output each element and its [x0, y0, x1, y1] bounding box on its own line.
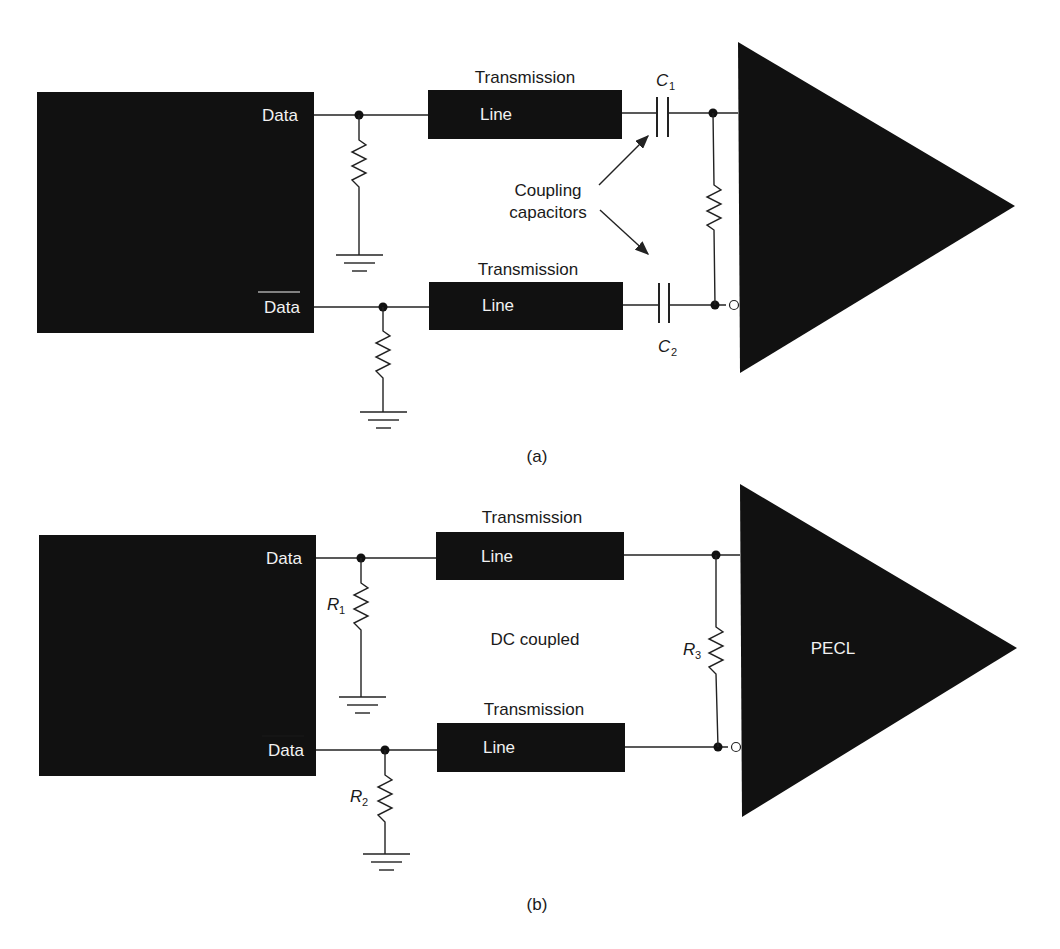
- driver-output-data-a: Data: [262, 106, 298, 125]
- line-label-bottom-b: Line: [483, 738, 515, 757]
- termination-resistor-receiver-a: [707, 113, 721, 305]
- transmission-label-bottom-a: Transmission: [478, 260, 578, 279]
- transmission-line-top-a: [428, 90, 622, 139]
- caption-b: (b): [527, 895, 548, 914]
- resistor-r3: [709, 555, 723, 747]
- pecl-label: PECL: [811, 639, 855, 658]
- ground-icon: [336, 255, 383, 271]
- r3-subscript: 3: [695, 649, 701, 661]
- c1-label: C: [656, 71, 669, 90]
- dc-coupled-annotation: DC coupled: [491, 630, 580, 649]
- coupling-annotation-line2: capacitors: [509, 203, 586, 222]
- ground-icon: [363, 854, 410, 870]
- coupling-diagram: Data Data Transmission Line Transmission…: [0, 0, 1060, 949]
- ground-icon: [339, 697, 386, 713]
- transmission-label-top-a: Transmission: [475, 68, 575, 87]
- transmission-label-top-b: Transmission: [482, 508, 582, 527]
- coupling-annotation-line1: Coupling: [514, 181, 581, 200]
- resistor-r2: [378, 750, 392, 854]
- transmission-line-top-b: [436, 532, 624, 580]
- transmission-line-bottom-a: [429, 282, 623, 330]
- inverting-input-bubble: [732, 743, 741, 752]
- panel-b: Data Data R 1 R 2 Transmission Line Tran…: [39, 484, 1017, 914]
- arrow-icon: [600, 210, 648, 254]
- r2-subscript: 2: [362, 796, 368, 808]
- termination-resistor-bottom-a: [376, 307, 390, 412]
- c2-subscript: 2: [671, 346, 677, 358]
- driver-output-data-bar-a: Data: [264, 298, 300, 317]
- r2-label: R: [350, 787, 362, 806]
- c2-label: C: [658, 337, 671, 356]
- panel-a: Data Data Transmission Line Transmission…: [37, 42, 1015, 466]
- driver-block-b: [39, 535, 316, 776]
- transmission-label-bottom-b: Transmission: [484, 700, 584, 719]
- line-label-top-b: Line: [481, 547, 513, 566]
- driver-block-a: [37, 92, 314, 333]
- arrow-icon: [599, 136, 648, 185]
- r1-subscript: 1: [339, 604, 345, 616]
- r3-label: R: [683, 640, 695, 659]
- termination-resistor-top-a: [352, 115, 366, 255]
- driver-output-data-b: Data: [266, 549, 302, 568]
- inverting-input-bubble: [730, 301, 739, 310]
- line-label-bottom-a: Line: [482, 296, 514, 315]
- transmission-line-bottom-b: [437, 723, 625, 772]
- driver-output-data-bar-b: Data: [268, 741, 304, 760]
- line-label-top-a: Line: [480, 105, 512, 124]
- receiver-amplifier-b: [740, 484, 1017, 817]
- c1-subscript: 1: [669, 80, 675, 92]
- resistor-r1: [354, 558, 368, 697]
- caption-a: (a): [527, 447, 548, 466]
- ground-icon: [360, 412, 407, 428]
- receiver-amplifier-a: [738, 42, 1015, 373]
- r1-label: R: [327, 595, 339, 614]
